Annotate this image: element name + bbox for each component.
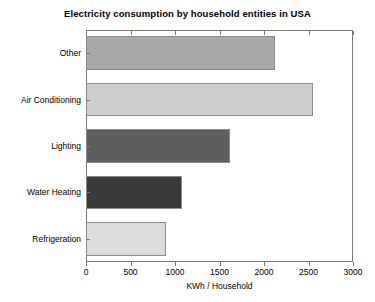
x-axis-tick-top	[131, 31, 132, 35]
x-axis-tick-label: 1500	[200, 267, 240, 277]
y-axis-tick	[86, 192, 90, 193]
y-axis-tick	[86, 100, 90, 101]
x-axis-tick	[309, 262, 310, 266]
y-axis-tick-label: Water Heating	[0, 187, 81, 197]
x-axis-tick-top	[175, 31, 176, 35]
y-axis-tick	[86, 146, 90, 147]
x-axis-tick-label: 3000	[333, 267, 373, 277]
y-axis-tick-label: Lighting	[0, 141, 81, 151]
x-axis-tick-top	[353, 31, 354, 35]
y-axis-tick-label: Other	[0, 48, 81, 58]
x-axis-tick-top	[264, 31, 265, 35]
x-axis-tick-label: 0	[66, 267, 106, 277]
x-axis-tick-label: 2500	[289, 267, 329, 277]
x-axis-tick	[353, 262, 354, 266]
bar	[86, 83, 313, 116]
y-axis-tick	[86, 53, 90, 54]
x-axis-tick-label: 2000	[244, 267, 284, 277]
bar	[86, 176, 182, 209]
bar	[86, 36, 275, 69]
bar	[86, 129, 230, 162]
x-axis-title: KWh / Household	[86, 281, 353, 291]
x-axis-tick-label: 500	[111, 267, 151, 277]
y-axis-tick-label: Air Conditioning	[0, 95, 81, 105]
x-axis-tick-top	[220, 31, 221, 35]
bar-chart: Electricity consumption by household ent…	[0, 0, 375, 302]
x-axis-tick-top	[86, 31, 87, 35]
x-axis-tick-label: 1000	[155, 267, 195, 277]
x-axis-tick	[220, 262, 221, 266]
x-axis-tick	[175, 262, 176, 266]
chart-title: Electricity consumption by household ent…	[0, 8, 375, 19]
y-axis-tick	[86, 239, 90, 240]
bar	[86, 222, 166, 255]
y-axis-tick-label: Refrigeration	[0, 234, 81, 244]
x-axis-tick-top	[309, 31, 310, 35]
x-axis-tick	[264, 262, 265, 266]
x-axis-tick	[86, 262, 87, 266]
x-axis-tick	[131, 262, 132, 266]
